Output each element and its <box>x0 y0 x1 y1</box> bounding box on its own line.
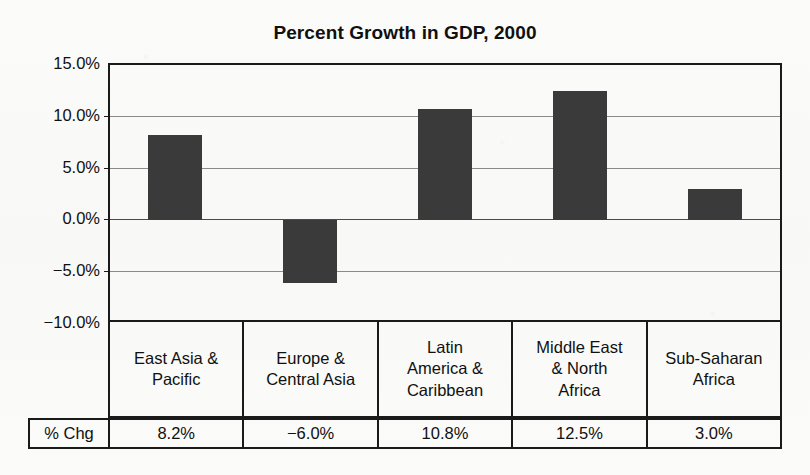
category-cell-2: LatinAmerica &Caribbean <box>379 322 513 416</box>
category-cell-1: Europe &Central Asia <box>244 322 378 416</box>
value-cell-4: 3.0% <box>648 420 780 447</box>
bar-0 <box>148 135 202 220</box>
bar-4 <box>688 189 742 220</box>
category-cell-3: Middle East& NorthAfrica <box>513 322 647 416</box>
bar-1 <box>283 220 337 282</box>
gridline--5 <box>110 271 780 272</box>
y-tick-label-1: 10.0% <box>0 105 100 124</box>
value-cell-3: 12.5% <box>513 420 647 447</box>
category-label-row: East Asia &PacificEurope &Central AsiaLa… <box>108 322 782 418</box>
category-cell-0: East Asia &Pacific <box>110 322 244 416</box>
value-table-row: % Chg 8.2% −6.0% 10.8% 12.5% 3.0% <box>28 418 782 449</box>
category-label: East Asia &Pacific <box>134 348 218 390</box>
category-label: Sub-SaharanAfrica <box>665 348 762 390</box>
value-cell-1: −6.0% <box>244 420 378 447</box>
y-tick-label-5: −10.0% <box>0 313 100 332</box>
category-label: Europe &Central Asia <box>266 348 355 390</box>
y-axis-labels: 15.0% 10.0% 5.0% 0.0% −5.0% −10.0% <box>0 0 100 475</box>
category-label: Middle East& NorthAfrica <box>536 337 622 400</box>
y-tick-mark-0 <box>104 219 110 220</box>
y-tick-label-0: 15.0% <box>0 54 100 73</box>
bar-3 <box>553 91 607 221</box>
value-row-label: % Chg <box>30 420 110 447</box>
bar-2 <box>418 109 472 221</box>
y-tick-label-3: 0.0% <box>0 209 100 228</box>
category-label: LatinAmerica &Caribbean <box>407 337 483 400</box>
y-tick-mark--5 <box>104 271 110 272</box>
chart-title: Percent Growth in GDP, 2000 <box>0 22 810 44</box>
y-tick-mark-10 <box>104 116 110 117</box>
y-tick-mark-5 <box>104 168 110 169</box>
category-cell-4: Sub-SaharanAfrica <box>648 322 780 416</box>
value-cell-2: 10.8% <box>379 420 513 447</box>
value-cell-0: 8.2% <box>110 420 244 447</box>
y-tick-label-2: 5.0% <box>0 157 100 176</box>
plot-area <box>108 63 782 322</box>
y-tick-label-4: −5.0% <box>0 261 100 280</box>
